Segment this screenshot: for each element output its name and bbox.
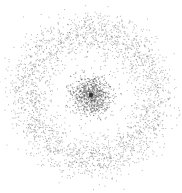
scatter-plot xyxy=(0,0,182,193)
inner-cluster-series xyxy=(51,53,123,130)
center-point xyxy=(89,93,93,97)
scatter-points xyxy=(0,5,182,190)
